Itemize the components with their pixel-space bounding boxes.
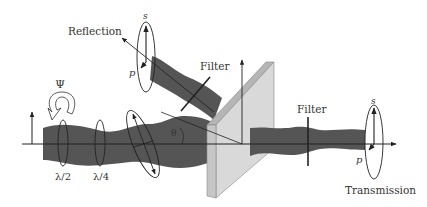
rotation-arrow-icon [48,92,75,120]
reflection-s-label: s [143,11,148,21]
quarter-wave-label: λ/4 [93,171,109,182]
theta-label: θ [171,128,176,138]
reflection-filter-label: Filter [200,60,230,72]
reflection-arrow [122,38,214,112]
transmission-p-label: p [356,154,363,165]
polarization-diagram: Ψ λ/2 λ/4 θ Reflection s p Filter Filter… [0,0,427,207]
reflection-label: Reflection [68,25,122,37]
transmission-label: Transmission [345,184,416,196]
transmission-sp-indicator [365,105,383,179]
transmission-s-label: s [371,96,376,106]
psi-label: Ψ [55,78,65,91]
reflection-p-label: p [129,67,136,78]
half-wave-label: λ/2 [55,171,71,182]
transmission-filter-label: Filter [297,103,327,115]
